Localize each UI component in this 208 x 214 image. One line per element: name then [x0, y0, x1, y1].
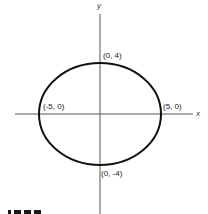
y-axis-label: y — [97, 2, 101, 10]
point-label-left: (-5, 0) — [43, 103, 64, 111]
ellipse-diagram: y x (0, 4) (-5, 0) (5, 0) (0, -4) — [0, 0, 208, 214]
x-axis-label: x — [196, 110, 200, 118]
point-label-right: (5, 0) — [163, 103, 182, 111]
point-label-bottom: (0, -4) — [101, 170, 122, 178]
cropped-caption-fragment — [8, 210, 41, 214]
point-label-top: (0, 4) — [103, 52, 122, 60]
